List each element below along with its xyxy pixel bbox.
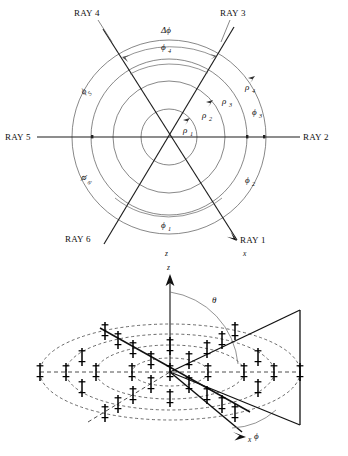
label-phi-bottom: ϕ bbox=[254, 431, 259, 441]
dipole-element bbox=[167, 337, 174, 355]
label-phi-3-sub: 3 bbox=[258, 112, 262, 119]
label-phi-3: ϕ bbox=[252, 107, 257, 117]
dipole-element bbox=[115, 395, 122, 413]
label-ray-3: RAY 3 bbox=[220, 8, 246, 18]
label-ray-5: RAY 5 bbox=[5, 132, 31, 142]
dipole-element bbox=[130, 340, 137, 358]
label-rho-4: ρ bbox=[244, 82, 250, 92]
x-axis-arrowhead bbox=[233, 432, 246, 441]
top-panel-polar-ray-grid: RAY 4 RAY 3 RAY 5 RAY 2 RAY 6 RAY 1 Δϕ ρ… bbox=[0, 0, 348, 262]
dipole-element bbox=[130, 386, 137, 404]
ray-3-leader bbox=[221, 20, 230, 42]
radius-labels: ρ 1 ρ 2 ρ 3 ρ 4 bbox=[182, 82, 255, 137]
dipole-element bbox=[102, 322, 109, 340]
label-phi-6-sub: 6 bbox=[86, 178, 94, 186]
label-theta: θ bbox=[212, 295, 217, 305]
label-phi-4: ϕ bbox=[161, 42, 166, 52]
label-rho-2: ρ bbox=[201, 110, 207, 120]
label-rho-1-sub: 1 bbox=[190, 130, 193, 137]
label-phi-2: ϕ bbox=[245, 175, 250, 185]
figure-root: RAY 4 RAY 3 RAY 5 RAY 2 RAY 6 RAY 1 Δϕ ρ… bbox=[0, 0, 348, 456]
ray-4-leader bbox=[98, 20, 112, 42]
label-rho-3: ρ bbox=[221, 96, 227, 106]
dipole-element bbox=[148, 375, 155, 393]
dipole-element bbox=[255, 379, 262, 397]
label-axis-z-bottom: z bbox=[166, 263, 170, 272]
label-ray-1: RAY 1 bbox=[240, 235, 266, 245]
label-ray-6: RAY 6 bbox=[65, 234, 91, 244]
label-phi-5-sub: 5 bbox=[86, 89, 93, 96]
label-phi-2-sub: 2 bbox=[252, 180, 255, 187]
dipole-element bbox=[148, 351, 155, 369]
sector-arc-phi-4 bbox=[130, 64, 208, 74]
label-ray-2: RAY 2 bbox=[303, 132, 329, 142]
label-rho-4-sub: 4 bbox=[252, 87, 255, 94]
label-phi-4-sub: 4 bbox=[168, 47, 171, 54]
array-oblique-dashed-ray bbox=[88, 372, 170, 422]
ray-line-3-6 bbox=[104, 27, 234, 244]
dipole-element bbox=[167, 389, 174, 407]
label-rho-3-sub: 3 bbox=[228, 101, 232, 108]
dipole-element bbox=[255, 348, 262, 366]
label-phi-1: ϕ bbox=[161, 220, 166, 230]
dipole-element bbox=[79, 379, 86, 397]
label-axis-z-top: z bbox=[164, 249, 168, 258]
label-axis-x-bottom: x bbox=[247, 435, 252, 444]
label-axis-x-top: x bbox=[242, 249, 247, 258]
bottom-panel-3d-array: z θ ϕ x bbox=[0, 262, 348, 456]
dipole-element bbox=[219, 395, 226, 413]
sector-arcs bbox=[115, 64, 222, 217]
label-rho-2-sub: 2 bbox=[209, 115, 212, 122]
sector-arc-phi-1 bbox=[115, 198, 222, 217]
dipole-element bbox=[79, 348, 86, 366]
dipole-element bbox=[232, 322, 239, 340]
dipole-element bbox=[186, 351, 193, 369]
label-delta-phi: Δϕ bbox=[160, 25, 171, 35]
dipole-element bbox=[297, 363, 304, 381]
label-phi-1-sub: 1 bbox=[168, 225, 171, 232]
label-ray-4: RAY 4 bbox=[74, 8, 100, 18]
label-rho-1: ρ bbox=[182, 125, 188, 135]
ray-line-4-1 bbox=[103, 29, 237, 240]
